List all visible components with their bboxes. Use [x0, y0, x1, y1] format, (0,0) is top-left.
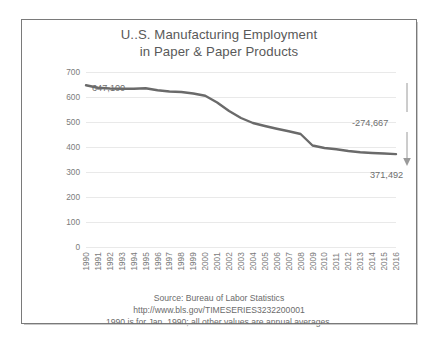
x-axis-tick-label: 2000 — [200, 249, 210, 289]
x-axis-tick-label: 1994 — [129, 249, 139, 289]
x-axis-tick-text: 2004 — [248, 261, 257, 271]
x-axis-tick-text: 2014 — [368, 261, 377, 271]
x-axis-tick-text: 1992 — [105, 261, 114, 271]
annotation-start-value: 647,100 — [92, 83, 125, 93]
chart-frame: U..S. Manufacturing Employment in Paper … — [21, 19, 417, 324]
y-axis-tick-label: 700 — [66, 67, 80, 77]
x-axis-tick-text: 2000 — [201, 261, 210, 271]
x-axis-tick-label: 1992 — [105, 249, 115, 289]
x-axis-tick-label: 1999 — [188, 249, 198, 289]
y-axis-tick-label: 300 — [66, 167, 80, 177]
x-axis-tick-label: 1997 — [164, 249, 174, 289]
x-axis-tick-label: 2016 — [391, 249, 401, 289]
x-axis-tick-label: 2002 — [224, 249, 234, 289]
chart-title-line-1: U..S. Manufacturing Employment — [22, 27, 416, 44]
footnote-url: http://www.bls.gov/TIMESERIES3232200001 — [22, 304, 416, 316]
x-axis-tick-label: 1991 — [93, 249, 103, 289]
x-axis-tick-label: 2013 — [355, 249, 365, 289]
x-axis-tick-text: 2016 — [392, 261, 401, 271]
x-axis-tick-text: 2002 — [225, 261, 234, 271]
x-axis-tick-text: 2008 — [296, 261, 305, 271]
x-axis-tick-text: 2009 — [308, 261, 317, 271]
x-axis-tick-label: 1993 — [117, 249, 127, 289]
x-axis-tick-text: 2015 — [380, 261, 389, 271]
x-axis-tick-text: 2011 — [332, 261, 341, 271]
x-axis-tick-text: 1994 — [129, 261, 138, 271]
x-axis-tick-text: 1999 — [189, 261, 198, 271]
x-axis-tick-text: 1998 — [177, 261, 186, 271]
x-axis-tick-text: 2007 — [284, 261, 293, 271]
x-axis-tick-text: 2012 — [344, 261, 353, 271]
x-axis-tick-label: 1996 — [153, 249, 163, 289]
net-change-arrow-icon — [400, 82, 414, 167]
x-axis-tick-text: 1991 — [93, 261, 102, 271]
x-axis-tick-text: 2006 — [272, 261, 281, 271]
x-axis-tick-label: 2001 — [212, 249, 222, 289]
x-axis-tick-label: 2006 — [272, 249, 282, 289]
x-axis-tick-label: 1990 — [81, 249, 91, 289]
x-axis-tick-label: 2012 — [343, 249, 353, 289]
x-axis-tick-label: 2009 — [308, 249, 318, 289]
x-axis-tick-label: 2014 — [367, 249, 377, 289]
x-axis-tick-text: 1996 — [153, 261, 162, 271]
x-axis-tick-text: 2003 — [237, 261, 246, 271]
series-line — [86, 72, 396, 247]
footnote-source: Source: Bureau of Labor Statistics — [22, 292, 416, 304]
y-axis-tick-label: 100 — [66, 217, 80, 227]
x-axis-tick-label: 1995 — [141, 249, 151, 289]
x-axis-tick-text: 2010 — [320, 261, 329, 271]
x-axis-tick-text: 2013 — [356, 261, 365, 271]
x-axis: 1990199119921993199419951996199719981999… — [86, 249, 396, 291]
x-axis-tick-text: 1997 — [165, 261, 174, 271]
x-axis-tick-label: 2004 — [248, 249, 258, 289]
x-axis-tick-label: 2011 — [331, 249, 341, 289]
y-axis-tick-label: 500 — [66, 117, 80, 127]
y-axis-tick-label: 400 — [66, 142, 80, 152]
y-axis-tick-label: 200 — [66, 192, 80, 202]
y-axis-tick-label: 600 — [66, 92, 80, 102]
annotation-end-value: 371,492 — [370, 170, 403, 180]
annotation-net-change: -274,667 — [352, 118, 388, 128]
chart-title-line-2: in Paper & Paper Products — [22, 44, 416, 61]
footnote-note: 1990 is for Jan. 1990; all other values … — [22, 316, 416, 328]
x-axis-tick-text: 2005 — [260, 261, 269, 271]
chart-title: U..S. Manufacturing Employment in Paper … — [22, 27, 416, 61]
y-axis-tick-label: 0 — [75, 242, 80, 252]
plot-area: 7006005004003002001000 — [86, 72, 396, 247]
gridline — [86, 247, 396, 248]
y-axis-title: thousands — [46, 72, 58, 247]
x-axis-tick-text: 2001 — [213, 261, 222, 271]
x-axis-tick-label: 2005 — [260, 249, 270, 289]
x-axis-tick-text: 1990 — [82, 261, 91, 271]
x-axis-tick-label: 1998 — [176, 249, 186, 289]
x-axis-tick-label: 2003 — [236, 249, 246, 289]
x-axis-tick-text: 1995 — [141, 261, 150, 271]
chart-footnote: Source: Bureau of Labor Statistics http:… — [22, 292, 416, 329]
x-axis-tick-label: 2010 — [319, 249, 329, 289]
x-axis-tick-label: 2008 — [296, 249, 306, 289]
x-axis-tick-label: 2007 — [284, 249, 294, 289]
x-axis-tick-text: 1993 — [117, 261, 126, 271]
x-axis-tick-label: 2015 — [379, 249, 389, 289]
